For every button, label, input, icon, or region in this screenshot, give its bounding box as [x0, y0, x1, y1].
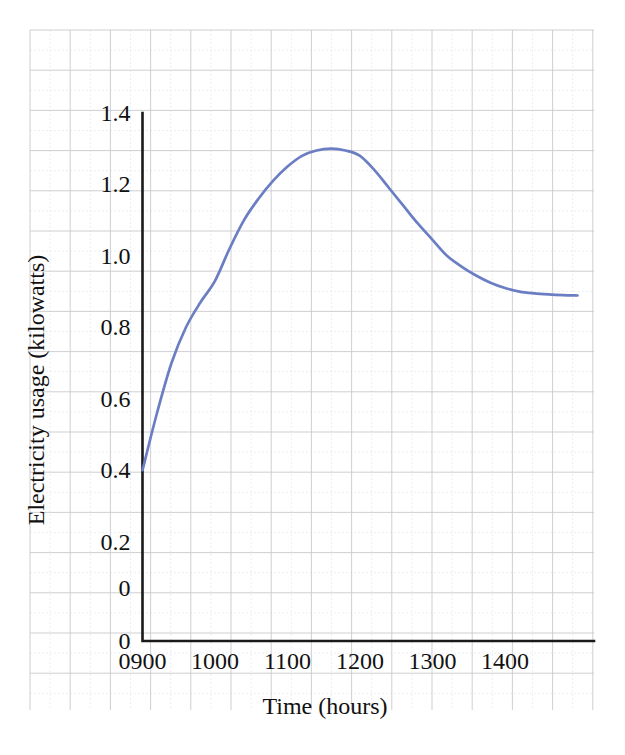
electricity-usage-line-chart: 1.41.21.00.80.60.40.200 0900100011001200… — [0, 0, 625, 755]
y-tick-label: 1.0 — [101, 243, 131, 269]
x-tick-label: 1300 — [409, 648, 457, 674]
x-tick-label: 1200 — [336, 648, 384, 674]
x-tick-label: 0900 — [119, 648, 167, 674]
y-tick-label: 0.4 — [101, 457, 131, 483]
y-tick-label: 1.2 — [101, 171, 131, 197]
y-tick-label: 1.4 — [101, 100, 131, 126]
x-tick-label: 1000 — [191, 648, 239, 674]
y-tick-label: 0.6 — [101, 386, 131, 412]
y-tick-label: 0 — [119, 575, 131, 601]
x-tick-label: 1100 — [264, 648, 311, 674]
x-axis-title: Time (hours) — [262, 693, 387, 719]
y-tick-label: 0.8 — [101, 314, 131, 340]
chart-figure: 1.41.21.00.80.60.40.200 0900100011001200… — [0, 0, 625, 755]
y-tick-label: 0.2 — [101, 529, 131, 555]
y-axis-title: Electricity usage (kilowatts) — [23, 255, 49, 526]
x-tick-label: 1400 — [481, 648, 529, 674]
